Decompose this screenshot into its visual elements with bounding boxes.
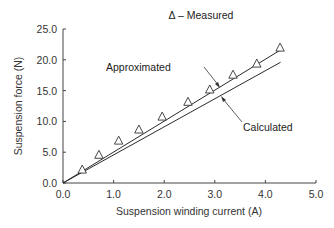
calculated-label: Calculated [243,121,293,133]
triangle-marker-icon [158,112,166,120]
triangle-marker-icon [206,85,214,93]
x-axis-title: Suspension winding current (A) [116,205,262,217]
annotations: Approximated Calculated [106,61,293,133]
y-axis-title: Suspension force (N) [12,57,24,156]
triangle-marker-icon [276,43,284,51]
legend-measured: Δ – Measured [169,9,234,21]
x-tick-label: 1.0 [106,188,121,200]
approximated-label: Approximated [106,61,171,73]
triangle-marker-icon [95,150,103,158]
approximated-arrowhead-icon [215,82,220,88]
y-tick-label: 25.0 [37,23,58,35]
triangle-marker-icon [114,136,122,144]
x-tick-label: 5.0 [309,188,324,200]
y-tick-label: 20.0 [37,54,58,66]
approximated-line [63,50,281,183]
x-tick-label: 2.0 [157,188,172,200]
calculated-arrow [223,99,242,122]
y-tick-label: 5.0 [42,146,57,158]
y-tick-label: 15.0 [37,85,58,97]
x-tick-label: 0.0 [56,188,71,200]
y-tick-label: 0.0 [42,177,57,189]
triangle-marker-icon [229,70,237,78]
triangle-marker-icon [184,97,192,105]
line-chart: 0.01.02.03.04.05.00.05.010.015.020.025.0… [0,0,334,228]
triangle-marker-icon [135,125,143,133]
y-tick-label: 10.0 [37,115,58,127]
series-lines [63,50,281,183]
x-tick-label: 4.0 [258,188,273,200]
x-tick-label: 3.0 [207,188,222,200]
